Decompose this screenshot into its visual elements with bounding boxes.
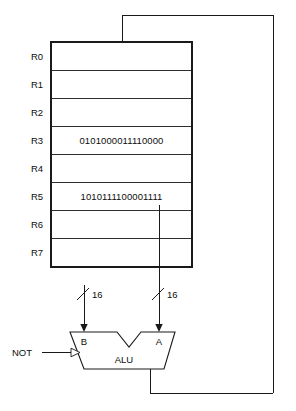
register-label-r6: R6 <box>31 219 43 230</box>
not-control-signal: NOT <box>12 347 80 358</box>
b-bus-width-slash-icon <box>77 288 89 300</box>
alu-port-b-label: B <box>81 336 87 347</box>
a-bus-width-slash-icon <box>152 288 164 300</box>
register-file: R0 R1 R2 R3 R4 R5 R6 R7 0101000011110000… <box>31 42 192 267</box>
datapath-diagram-canvas: R0 R1 R2 R3 R4 R5 R6 R7 0101000011110000… <box>0 0 296 411</box>
alu-unit: B A ALU <box>70 332 175 369</box>
register-label-r2: R2 <box>31 107 43 118</box>
a-operand-arrow-icon <box>155 324 162 332</box>
b-operand-arrow-icon <box>80 324 87 332</box>
not-control-label: NOT <box>12 347 32 358</box>
alu-name-label: ALU <box>115 354 134 365</box>
register-value-r5: 1010111100001111 <box>81 191 163 202</box>
register-label-r1: R1 <box>31 79 43 90</box>
register-label-r5: R5 <box>31 191 43 202</box>
register-value-r3: 0101000011110000 <box>79 135 163 146</box>
register-label-r3: R3 <box>31 135 43 146</box>
register-label-r4: R4 <box>31 163 43 174</box>
register-alu-diagram: R0 R1 R2 R3 R4 R5 R6 R7 0101000011110000… <box>0 0 296 411</box>
b-operand-input-wire: 16 <box>77 285 103 332</box>
b-bus-width-label: 16 <box>92 289 103 300</box>
register-label-r0: R0 <box>31 51 43 62</box>
a-bus-width-label: 16 <box>167 289 178 300</box>
register-label-r7: R7 <box>31 247 43 258</box>
alu-port-a-label: A <box>156 336 163 347</box>
